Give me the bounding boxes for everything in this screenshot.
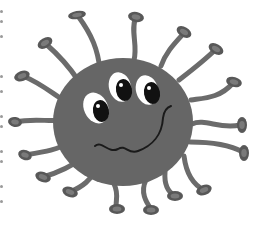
- tentacle-tip-highlight: [241, 149, 247, 157]
- edge-dot: [0, 35, 3, 38]
- germ-illustration: [0, 0, 262, 226]
- edge-dot: [0, 20, 3, 23]
- pupil-glint: [96, 104, 100, 108]
- edge-dot: [0, 160, 3, 163]
- pupil-glint: [147, 86, 151, 90]
- tentacle-tip-highlight: [171, 194, 180, 199]
- tentacle-tip-highlight: [239, 121, 245, 129]
- pupil-glint: [119, 83, 123, 87]
- edge-dot: [0, 115, 3, 118]
- tentacle-stalk: [134, 17, 136, 60]
- edge-dot: [0, 200, 3, 203]
- tentacle-tip-highlight: [147, 208, 156, 213]
- edge-dots: [0, 0, 4, 226]
- edge-dot: [0, 10, 3, 13]
- edge-dot: [0, 125, 3, 128]
- edge-dot: [0, 150, 3, 153]
- edge-dot: [0, 90, 3, 93]
- tentacle-tip-highlight: [113, 207, 122, 212]
- edge-dot: [0, 75, 3, 78]
- edge-dot: [0, 185, 3, 188]
